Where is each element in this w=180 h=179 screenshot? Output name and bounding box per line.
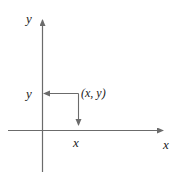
- x-axis-label: x: [163, 138, 169, 151]
- coordinate-diagram: y x y x (x, y): [0, 0, 180, 179]
- point-coordinate-label: (x, y): [81, 87, 106, 99]
- y-coordinate-label: y: [26, 87, 32, 100]
- y-axis-label: y: [26, 12, 32, 25]
- x-coordinate-label: x: [73, 136, 79, 149]
